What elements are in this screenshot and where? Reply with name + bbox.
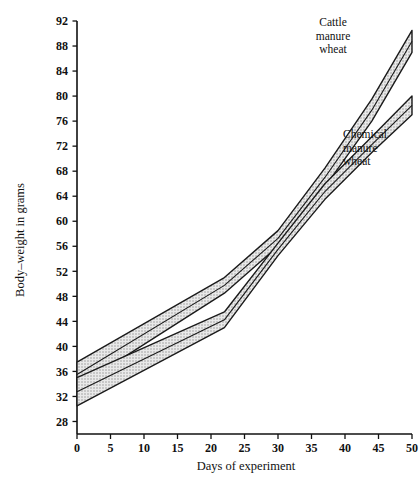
y-tick-label: 28 xyxy=(56,415,68,429)
y-tick-label: 80 xyxy=(56,89,68,103)
y-tick-label: 48 xyxy=(56,290,68,304)
y-axis-title: Body–weight in grams xyxy=(13,183,27,297)
x-tick-label: 40 xyxy=(339,441,351,455)
centerline-cattle-manure-wheat xyxy=(77,41,412,374)
y-tick-label: 68 xyxy=(56,164,68,178)
y-tick-label: 76 xyxy=(56,114,68,128)
y-tick-label: 60 xyxy=(56,214,68,228)
y-tick-label: 64 xyxy=(56,189,68,203)
x-tick-label: 35 xyxy=(306,441,318,455)
chart-svg: 2832364044485256606468727680848892 05101… xyxy=(0,0,420,478)
y-tick-label: 88 xyxy=(56,39,68,53)
y-tick-label: 72 xyxy=(56,139,68,153)
chart-figure: 2832364044485256606468727680848892 05101… xyxy=(0,0,420,478)
x-tick-label: 5 xyxy=(108,441,114,455)
y-tick-label: 44 xyxy=(56,315,68,329)
y-tick-label: 40 xyxy=(56,340,68,354)
y-tick-label: 92 xyxy=(56,14,68,28)
x-tick-label: 15 xyxy=(172,441,184,455)
x-tick-label: 0 xyxy=(74,441,80,455)
x-tick-label: 30 xyxy=(272,441,284,455)
y-tick-label: 52 xyxy=(56,265,68,279)
x-tick-label: 45 xyxy=(373,441,385,455)
band-cattle-manure-wheat xyxy=(77,30,412,387)
data-bands xyxy=(77,30,412,405)
annotation-chemical-manure-wheat: Chemical manure wheat xyxy=(343,128,413,169)
y-tick-label: 32 xyxy=(56,390,68,404)
y-tick-label: 56 xyxy=(56,239,68,253)
x-axis-title: Days of experiment xyxy=(197,459,296,473)
y-tick-label: 84 xyxy=(56,64,68,78)
x-tick-label: 50 xyxy=(406,441,418,455)
x-tick-label: 25 xyxy=(239,441,251,455)
annotation-cattle-manure-wheat: Cattle manure wheat xyxy=(300,16,366,57)
x-tick-label: 10 xyxy=(138,441,150,455)
x-axis: 05101520253035404550 xyxy=(74,434,418,455)
y-axis: 2832364044485256606468727680848892 xyxy=(56,14,77,434)
x-tick-label: 20 xyxy=(205,441,217,455)
y-tick-label: 36 xyxy=(56,365,68,379)
